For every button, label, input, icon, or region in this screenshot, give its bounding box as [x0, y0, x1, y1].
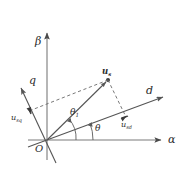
component-marker-usq	[27, 107, 32, 114]
component-usd-subscript: sd	[126, 124, 132, 130]
angle-arc-theta1	[67, 118, 76, 140]
q-axis-label: q	[29, 75, 36, 86]
angle-theta1-subscript: 1	[75, 112, 79, 118]
beta-axis-label: β	[35, 36, 41, 47]
angle-theta1-label: θ1	[70, 108, 79, 117]
angle-theta-label: θ	[95, 124, 100, 133]
vector-diagram-figure: α β d q O us usd usq θ θ1	[0, 0, 184, 169]
component-usq-subscript: sq	[16, 117, 22, 123]
d-axis-label: d	[146, 85, 153, 96]
component-usd-label: usd	[121, 121, 132, 129]
alpha-axis-label: α	[168, 134, 175, 145]
vector-us-label: us	[102, 67, 111, 76]
vector-us-subscript: s	[108, 71, 111, 77]
projection-line-usd	[108, 80, 126, 117]
origin-label: O	[35, 144, 43, 154]
diagram-canvas	[0, 0, 184, 169]
projection-line-usq	[29, 80, 108, 111]
component-usq-label: usq	[11, 114, 22, 122]
